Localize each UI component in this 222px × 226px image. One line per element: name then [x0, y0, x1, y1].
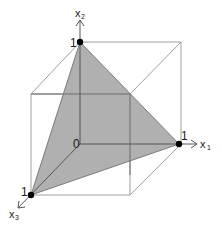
svg-text:x: x	[200, 138, 206, 150]
svg-text:3: 3	[15, 214, 19, 221]
x2-unit-point	[77, 39, 83, 45]
x3-unit-point	[28, 192, 34, 198]
origin-label: 0	[73, 137, 80, 151]
svg-text:2: 2	[81, 13, 85, 20]
x2-tick-label: 1	[70, 36, 77, 50]
x2-axis-label: x 2	[75, 7, 85, 20]
diagram-svg: 0 1 1 1 x 2 x 1 x 3	[0, 0, 222, 226]
x3-tick-label: 1	[21, 185, 28, 199]
x1-tick-label: 1	[181, 129, 188, 143]
x3-axis-label: x 3	[9, 208, 19, 221]
x1-axis-label: x 1	[200, 138, 211, 151]
simplex-diagram: 0 1 1 1 x 2 x 1 x 3	[0, 0, 222, 226]
svg-text:1: 1	[207, 144, 211, 151]
